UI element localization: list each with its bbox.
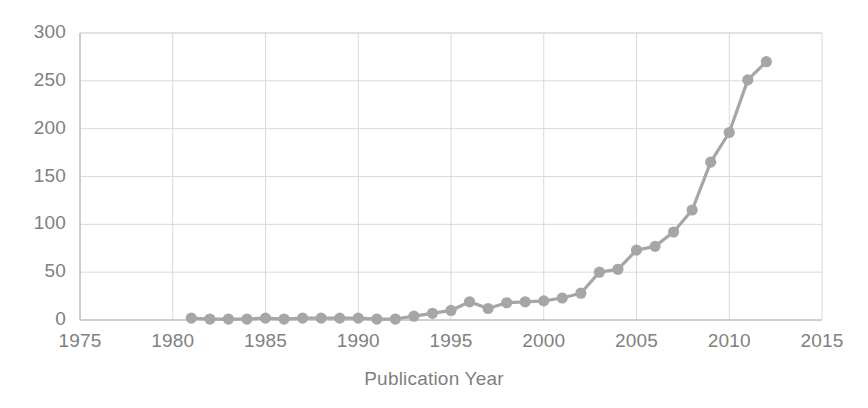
data-point (575, 288, 586, 299)
x-tick-label: 1980 (133, 330, 213, 352)
data-point (316, 312, 327, 323)
line-chart: 050100150200250300 197519801985199019952… (0, 0, 868, 408)
data-series-line (191, 62, 766, 319)
data-point (260, 312, 271, 323)
data-point (538, 295, 549, 306)
data-point (483, 303, 494, 314)
data-point (501, 297, 512, 308)
data-point (390, 313, 401, 324)
y-tick-label: 0 (0, 308, 66, 330)
data-point (742, 74, 753, 85)
data-point (687, 204, 698, 215)
data-point (408, 311, 419, 322)
x-tick-label: 1990 (318, 330, 398, 352)
y-tick-label: 50 (0, 260, 66, 282)
x-axis-title: Publication Year (0, 368, 868, 390)
x-tick-label: 2000 (504, 330, 584, 352)
y-tick-label: 300 (0, 21, 66, 43)
data-point (278, 313, 289, 324)
data-point (705, 157, 716, 168)
grid-lines (80, 33, 822, 320)
data-point (464, 296, 475, 307)
x-tick-label: 2010 (689, 330, 769, 352)
data-point (668, 226, 679, 237)
y-tick-label: 150 (0, 165, 66, 187)
data-point (557, 292, 568, 303)
data-point (353, 312, 364, 323)
x-tick-label: 1985 (226, 330, 306, 352)
x-tick-label: 2005 (597, 330, 677, 352)
data-point (649, 241, 660, 252)
data-point (594, 267, 605, 278)
series-line-0 (191, 62, 766, 319)
data-point (223, 313, 234, 324)
data-point (631, 245, 642, 256)
data-series-markers (186, 56, 772, 325)
data-point (204, 313, 215, 324)
data-point (520, 296, 531, 307)
data-point (612, 264, 623, 275)
data-point (371, 313, 382, 324)
x-tick-label: 1975 (40, 330, 120, 352)
data-point (297, 312, 308, 323)
data-point (761, 56, 772, 67)
x-tick-label: 2015 (782, 330, 862, 352)
y-tick-label: 250 (0, 69, 66, 91)
data-point (241, 313, 252, 324)
x-tick-label: 1995 (411, 330, 491, 352)
y-tick-label: 200 (0, 117, 66, 139)
data-point (724, 127, 735, 138)
data-point (334, 312, 345, 323)
data-point (445, 305, 456, 316)
data-point (427, 308, 438, 319)
y-tick-label: 100 (0, 212, 66, 234)
data-point (186, 312, 197, 323)
